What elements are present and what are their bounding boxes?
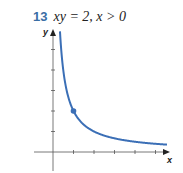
highlighted-point bbox=[71, 108, 77, 114]
axes bbox=[34, 29, 170, 171]
curve-y-equals-2-over-x bbox=[60, 31, 167, 144]
x-axis-label: x bbox=[166, 155, 173, 165]
hyperbola-plot: x y bbox=[0, 0, 183, 173]
y-axis-label: y bbox=[42, 27, 49, 37]
